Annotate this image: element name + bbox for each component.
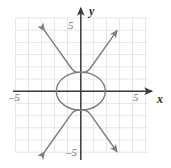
x-axis-label: x <box>157 93 163 105</box>
graph-figure: –5 5 5 –5 x y <box>0 0 171 168</box>
y-axis-tick-label-positive-5: 5 <box>68 20 74 31</box>
x-axis-tick-label-positive-5: 5 <box>133 92 139 103</box>
y-axis-label: y <box>89 5 94 17</box>
coordinate-plane <box>0 0 171 168</box>
y-axis-tick-label-negative-5: –5 <box>66 147 77 158</box>
x-axis-tick-label-negative-5: –5 <box>9 92 20 103</box>
axis-lines <box>13 8 152 160</box>
